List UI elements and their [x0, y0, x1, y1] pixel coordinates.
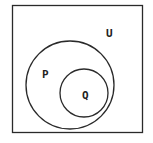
set-q-label: Q	[82, 89, 89, 102]
universe-label: U	[106, 27, 113, 40]
set-p-label: P	[42, 68, 49, 81]
set-p-circle	[26, 41, 114, 129]
venn-diagram: U P Q	[0, 0, 153, 143]
universe-box	[13, 6, 143, 133]
